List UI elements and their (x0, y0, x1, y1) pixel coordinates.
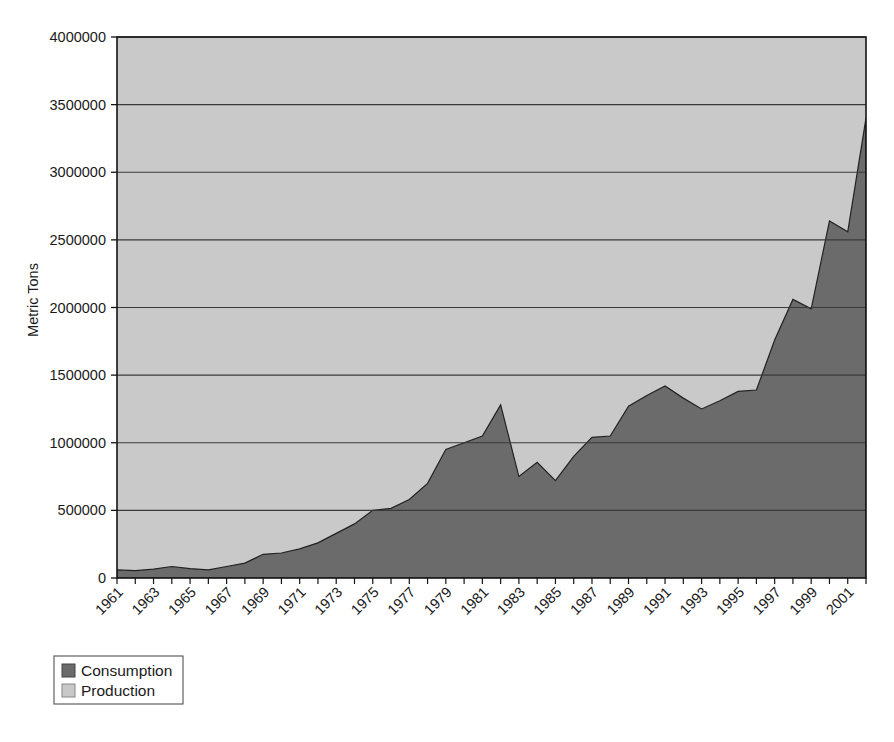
y-tick-label: 1500000 (50, 367, 106, 383)
x-tick-label: 1971 (275, 584, 309, 618)
x-tick-label: 1993 (677, 584, 711, 618)
chart-container: 0500000100000015000002000000250000030000… (0, 0, 894, 742)
x-tick-label: 1961 (92, 584, 126, 618)
x-tick-label: 1977 (384, 584, 418, 618)
x-tick-label: 1975 (348, 584, 382, 618)
x-tick-label: 1967 (202, 584, 236, 618)
x-tick-label: 1981 (457, 584, 491, 618)
y-tick-label: 2500000 (50, 232, 106, 248)
x-tick-label: 2001 (823, 584, 857, 618)
legend-swatch-consumption (62, 664, 75, 677)
x-tick-label: 1963 (129, 584, 163, 618)
x-tick-label: 1965 (165, 584, 199, 618)
x-tick-label: 1991 (640, 584, 674, 618)
legend-label-consumption: Consumption (81, 662, 172, 679)
y-tick-label: 2000000 (50, 300, 106, 316)
y-tick-label: 1000000 (50, 435, 106, 451)
chart-legend: Consumption Production (54, 656, 183, 704)
x-tick-label: 1983 (494, 584, 528, 618)
x-tick-label: 1969 (238, 584, 272, 618)
x-tick-label: 1989 (604, 584, 638, 618)
legend-swatch-production (62, 684, 75, 697)
x-tick-label: 1985 (530, 584, 564, 618)
y-tick-label: 4000000 (50, 29, 106, 45)
y-tick-label: 0 (98, 570, 106, 586)
legend-label-production: Production (81, 682, 155, 699)
x-axis: 1961196319651967196919711973197519771979… (92, 578, 866, 618)
x-tick-label: 1987 (567, 584, 601, 618)
y-tick-label: 3500000 (50, 97, 106, 113)
x-tick-label: 1997 (750, 584, 784, 618)
y-axis-title: Metric Tons (25, 263, 41, 337)
area-chart: 0500000100000015000002000000250000030000… (0, 0, 894, 742)
x-tick-label: 1995 (713, 584, 747, 618)
x-tick-label: 1979 (421, 584, 455, 618)
x-tick-label: 1973 (311, 584, 345, 618)
y-axis: 0500000100000015000002000000250000030000… (50, 29, 117, 586)
x-tick-label: 1999 (786, 584, 820, 618)
y-tick-label: 3000000 (50, 164, 106, 180)
y-tick-label: 500000 (58, 502, 106, 518)
